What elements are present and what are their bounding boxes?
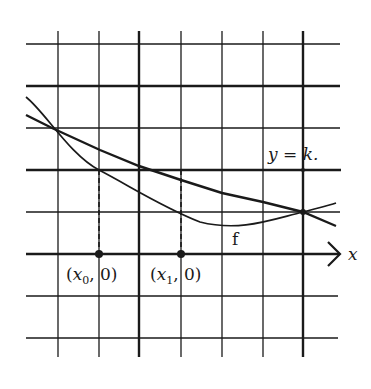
curve-label: f [232,229,240,249]
point-x1 [177,250,185,258]
point-x0-label: (x0, 0) [66,264,118,287]
point-x0 [95,250,103,258]
line-label: y = k. [267,144,318,164]
grid [26,31,341,357]
x-axis-label: x [348,244,358,264]
point-x1-label: (x1, 0) [150,264,202,287]
intersection-point [300,209,306,215]
graph-figure: y = k. f x (x0, 0) (x1, 0) [0,0,371,389]
k-marker [301,168,305,172]
